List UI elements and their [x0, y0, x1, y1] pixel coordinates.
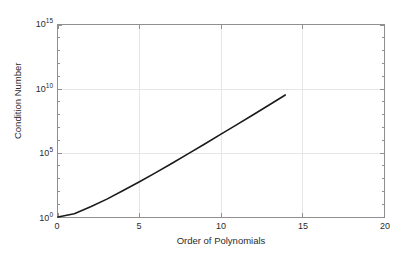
x-tick-label: 5: [136, 222, 141, 231]
plot-area: [57, 24, 385, 218]
x-tick-label: 20: [380, 222, 390, 231]
y-axis-tick-labels: 10010510101015: [0, 24, 53, 218]
x-tick-label: 10: [216, 222, 226, 231]
x-axis-tick-labels: 05101520: [57, 222, 385, 236]
data-series-line: [58, 25, 384, 217]
y-tick-label: 1010: [36, 84, 53, 93]
figure-canvas: 10010510101015 05101520 Order of Polynom…: [0, 0, 412, 255]
y-tick-label: 1015: [36, 20, 53, 29]
y-tick-exponent: 0: [49, 211, 53, 218]
y-axis-title: Condition Number: [13, 31, 23, 171]
y-tick-mantissa: 10: [36, 19, 46, 29]
x-axis-title: Order of Polynomials: [57, 236, 385, 246]
y-tick-mantissa: 10: [36, 83, 46, 93]
y-tick-exponent: 10: [46, 81, 53, 88]
series-condition-number: [58, 95, 285, 217]
y-tick-exponent: 5: [49, 146, 53, 153]
y-tick-mantissa: 10: [39, 213, 49, 223]
y-tick-exponent: 15: [46, 17, 53, 24]
x-tick-label: 0: [54, 222, 59, 231]
y-tick-label: 105: [39, 149, 53, 158]
y-tick-label: 100: [39, 214, 53, 223]
y-tick-mantissa: 10: [39, 148, 49, 158]
x-tick-label: 15: [298, 222, 308, 231]
